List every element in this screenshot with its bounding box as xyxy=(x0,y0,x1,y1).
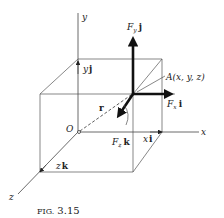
zk-label: zk xyxy=(55,161,69,171)
r-label: r xyxy=(99,103,104,113)
fy-label: Fyj xyxy=(126,22,142,34)
fx-label: Fxi xyxy=(166,99,183,110)
xi-label: xi xyxy=(143,134,153,144)
zk-arrow xyxy=(40,165,46,172)
point-a-label: A(x, y, z) xyxy=(165,72,205,82)
yj-label: yj xyxy=(82,64,92,74)
z-axis-label: z xyxy=(8,192,14,202)
z-axis xyxy=(18,132,78,194)
coordinate-box xyxy=(40,59,175,172)
point-a xyxy=(132,93,134,95)
position-vector-r xyxy=(80,95,131,131)
figure-caption: FIG.3.15 xyxy=(37,205,80,216)
force-components-diagram: y x z O r A(x, y, z) Fyj Fxi Fzk xi yj z… xyxy=(0,0,224,218)
origin-label: O xyxy=(66,124,74,134)
fz-label: Fzk xyxy=(111,137,130,148)
fz-arrow xyxy=(119,94,133,115)
x-axis-label: x xyxy=(201,127,206,137)
y-axis-label: y xyxy=(81,12,88,22)
